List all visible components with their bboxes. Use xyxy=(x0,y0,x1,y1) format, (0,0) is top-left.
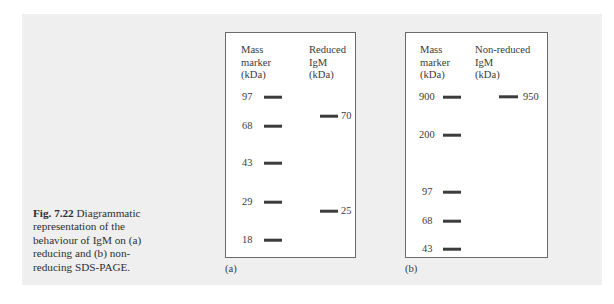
gel-panel-a: Mass marker (kDa) Reduced IgM (kDa) 97 6… xyxy=(225,32,356,258)
caption-figure-number: Fig. 7.22 xyxy=(33,207,74,219)
marker-band-900 xyxy=(443,96,461,99)
marker-band-43 xyxy=(264,162,282,165)
marker-label-29: 29 xyxy=(242,196,252,207)
marker-label-18: 18 xyxy=(242,234,252,245)
non-reduced-igm-column-header: Non-reduced IgM (kDa) xyxy=(475,44,530,82)
marker-band-29 xyxy=(264,201,282,204)
marker-band-43 xyxy=(443,248,461,251)
marker-label-68: 68 xyxy=(422,215,432,226)
marker-band-97 xyxy=(443,191,461,194)
reduced-label-25: 25 xyxy=(341,205,351,216)
non-reduced-label-950: 950 xyxy=(523,91,539,102)
marker-band-200 xyxy=(443,134,461,137)
marker-column-header: Mass marker (kDa) xyxy=(241,44,271,82)
marker-label-68: 68 xyxy=(242,120,252,131)
marker-label-97: 97 xyxy=(422,186,432,197)
figure-caption: Fig. 7.22 Diagrammatic representation of… xyxy=(33,207,163,274)
panel-label-b: (b) xyxy=(405,263,417,274)
marker-column-header: Mass marker (kDa) xyxy=(420,44,450,82)
panel-label-a: (a) xyxy=(225,263,237,274)
marker-label-97: 97 xyxy=(242,91,252,102)
marker-band-68 xyxy=(443,220,461,223)
reduced-igm-column-header: Reduced IgM (kDa) xyxy=(309,44,346,82)
marker-label-43: 43 xyxy=(242,157,252,168)
reduced-label-70: 70 xyxy=(341,110,351,121)
marker-label-43: 43 xyxy=(422,243,432,254)
marker-band-97 xyxy=(264,96,282,99)
reduced-band-25 xyxy=(320,210,338,213)
marker-label-200: 200 xyxy=(419,129,435,140)
marker-band-18 xyxy=(264,239,282,242)
gel-panel-b: Mass marker (kDa) Non-reduced IgM (kDa) … xyxy=(405,32,548,258)
marker-label-900: 900 xyxy=(419,91,435,102)
reduced-band-70 xyxy=(320,115,338,118)
marker-band-68 xyxy=(264,125,282,128)
non-reduced-band-950 xyxy=(499,95,518,98)
